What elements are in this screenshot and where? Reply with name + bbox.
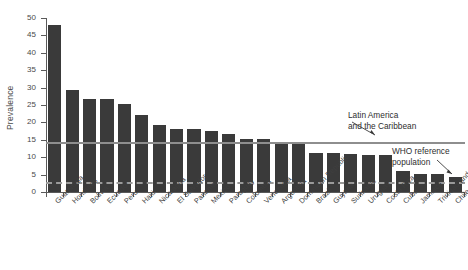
annotation-who-line1: WHO reference [392, 146, 450, 157]
annotation-who-line2: population [392, 157, 450, 168]
x-tick-mark [46, 193, 47, 197]
y-tick-label: 5 [16, 170, 36, 179]
bar [48, 25, 61, 192]
y-tick-label: 40 [16, 48, 36, 57]
annotation-who: WHO reference population [392, 146, 450, 167]
y-tick-label: 0 [16, 187, 36, 196]
y-tick-label: 20 [16, 117, 36, 126]
bar [135, 115, 148, 192]
prevalence-bar-chart: Prevalence 05101520253035404550 Guatemal… [0, 0, 468, 270]
y-tick-label: 10 [16, 152, 36, 161]
bar [100, 99, 113, 192]
annotation-latin-america-line2: and the Caribbean [348, 121, 416, 132]
annotation-latin-america-line1: Latin America [348, 110, 416, 121]
y-tick-label: 30 [16, 83, 36, 92]
y-tick-label: 15 [16, 135, 36, 144]
reference-line-latin-america [46, 142, 465, 144]
annotation-latin-america: Latin America and the Caribbean [348, 110, 416, 131]
y-tick-label: 50 [16, 13, 36, 22]
y-tick-label: 35 [16, 65, 36, 74]
y-tick-label: 25 [16, 100, 36, 109]
y-tick-label: 45 [16, 30, 36, 39]
